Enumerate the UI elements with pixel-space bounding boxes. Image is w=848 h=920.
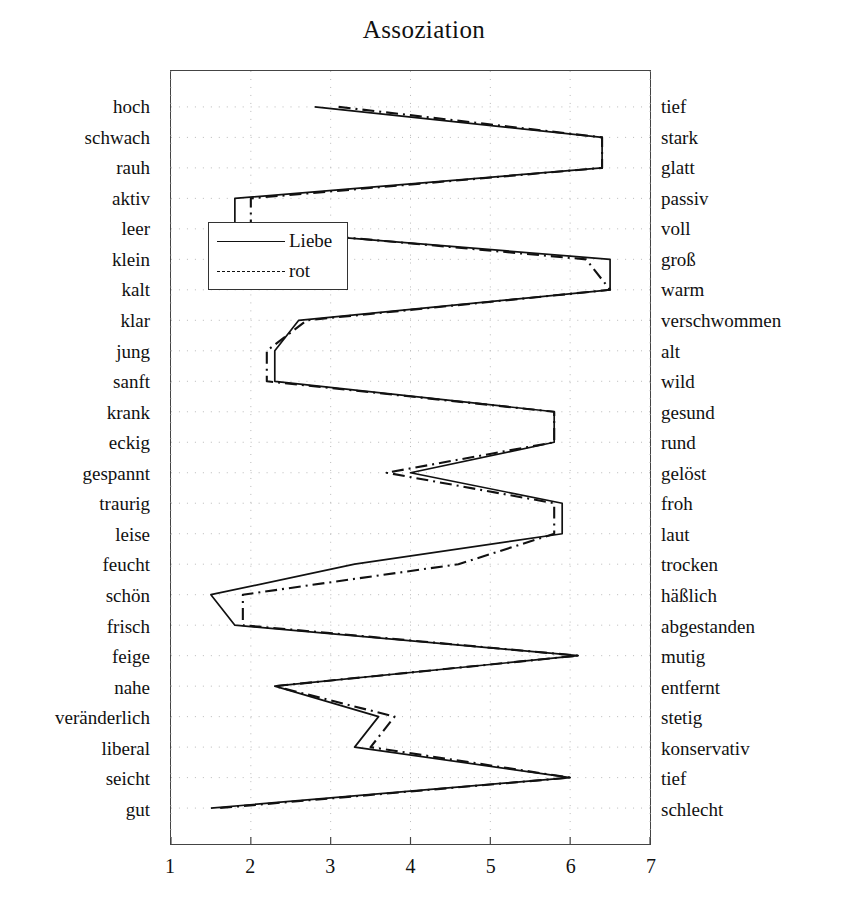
right-label-9: wild bbox=[661, 372, 695, 391]
right-label-2: glatt bbox=[661, 158, 695, 177]
legend-item-rot: rot bbox=[209, 257, 347, 287]
left-label-3: aktiv bbox=[112, 189, 150, 208]
right-label-5: groß bbox=[661, 250, 696, 269]
right-label-11: rund bbox=[661, 433, 696, 452]
left-label-2: rauh bbox=[116, 158, 150, 177]
left-label-13: traurig bbox=[99, 494, 150, 513]
semantic-differential-chart: Assoziation hochschwachrauhaktivleerklei… bbox=[0, 0, 848, 920]
right-label-21: konservativ bbox=[661, 739, 750, 758]
left-label-1: schwach bbox=[85, 128, 150, 147]
series-line-rot bbox=[219, 107, 610, 808]
left-label-18: feige bbox=[112, 647, 150, 666]
right-label-7: verschwommen bbox=[661, 311, 781, 330]
x-tick-label-3: 3 bbox=[325, 855, 335, 878]
left-label-19: nahe bbox=[114, 678, 150, 697]
left-label-22: seicht bbox=[106, 769, 150, 788]
right-label-1: stark bbox=[661, 128, 698, 147]
plot-area bbox=[170, 70, 651, 845]
legend-item-liebe: Liebe bbox=[209, 227, 347, 257]
left-label-20: veränderlich bbox=[55, 708, 150, 727]
legend-line-sample-solid bbox=[217, 241, 285, 244]
series-line-liebe bbox=[211, 107, 610, 808]
left-label-0: hoch bbox=[113, 97, 150, 116]
left-label-14: leise bbox=[115, 525, 150, 544]
left-label-11: eckig bbox=[109, 433, 150, 452]
x-axis-tick-labels: 1234567 bbox=[170, 855, 651, 885]
right-label-23: schlecht bbox=[661, 800, 723, 819]
left-label-8: jung bbox=[116, 342, 150, 361]
left-label-17: frisch bbox=[107, 617, 150, 636]
right-label-17: abgestanden bbox=[661, 617, 755, 636]
legend-label-liebe: Liebe bbox=[289, 230, 332, 252]
x-tick-label-4: 4 bbox=[406, 855, 416, 878]
left-label-23: gut bbox=[126, 800, 150, 819]
left-label-6: kalt bbox=[122, 280, 151, 299]
right-label-14: laut bbox=[661, 525, 690, 544]
legend-line-sample-dashdot bbox=[217, 271, 285, 274]
left-label-5: klein bbox=[112, 250, 150, 269]
right-label-19: entfernt bbox=[661, 678, 720, 697]
left-label-21: liberal bbox=[101, 739, 150, 758]
x-tick-label-7: 7 bbox=[646, 855, 656, 878]
right-label-3: passiv bbox=[661, 189, 709, 208]
left-label-9: sanft bbox=[113, 372, 150, 391]
right-label-18: mutig bbox=[661, 647, 705, 666]
x-tick-label-1: 1 bbox=[165, 855, 175, 878]
right-label-4: voll bbox=[661, 219, 691, 238]
left-label-10: krank bbox=[107, 403, 150, 422]
right-label-16: häßlich bbox=[661, 586, 717, 605]
left-label-16: schön bbox=[106, 586, 150, 605]
left-label-15: feucht bbox=[103, 555, 150, 574]
right-axis-labels: tiefstarkglattpassivvollgroßwarmverschwo… bbox=[661, 70, 848, 845]
right-label-15: trocken bbox=[661, 555, 718, 574]
right-label-0: tief bbox=[661, 97, 686, 116]
right-label-6: warm bbox=[661, 280, 704, 299]
left-axis-labels: hochschwachrauhaktivleerkleinkaltklarjun… bbox=[0, 70, 160, 845]
series-layer bbox=[171, 71, 650, 844]
right-label-8: alt bbox=[661, 342, 680, 361]
right-label-10: gesund bbox=[661, 403, 715, 422]
left-label-7: klar bbox=[120, 311, 150, 330]
x-tick-label-6: 6 bbox=[566, 855, 576, 878]
left-label-12: gespannt bbox=[82, 464, 150, 483]
right-label-12: gelöst bbox=[661, 464, 706, 483]
right-label-13: froh bbox=[661, 494, 693, 513]
x-tick-label-5: 5 bbox=[486, 855, 496, 878]
chart-title: Assoziation bbox=[0, 16, 848, 44]
right-label-22: tief bbox=[661, 769, 686, 788]
legend-label-rot: rot bbox=[289, 260, 310, 282]
left-label-4: leer bbox=[122, 219, 150, 238]
right-label-20: stetig bbox=[661, 708, 702, 727]
x-tick-label-2: 2 bbox=[245, 855, 255, 878]
chart-legend: Liebe rot bbox=[208, 222, 348, 290]
